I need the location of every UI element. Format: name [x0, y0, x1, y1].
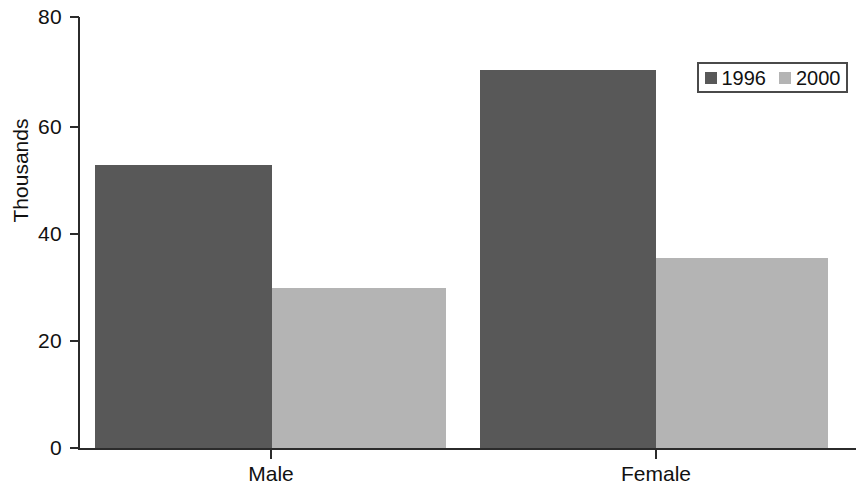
- x-tick-label: Male: [248, 462, 294, 486]
- y-tick-mark: [70, 340, 79, 342]
- y-tick-label: 40: [8, 223, 62, 244]
- legend-item-2000: 2000: [779, 68, 841, 88]
- bar-female-2000: [656, 258, 828, 448]
- y-tick-label: 80: [8, 6, 62, 27]
- x-tick-mark: [270, 450, 272, 459]
- x-axis-line: [78, 448, 856, 450]
- y-tick-label: 0: [8, 437, 62, 458]
- y-tick-mark: [70, 16, 79, 18]
- bar-male-2000: [272, 288, 446, 448]
- x-tick-mark: [655, 450, 657, 459]
- y-tick-mark: [70, 447, 79, 449]
- bar-female-1996: [480, 70, 656, 448]
- legend-swatch-2000: [779, 72, 791, 84]
- x-tick-label: Female: [621, 462, 691, 486]
- y-tick-mark: [70, 126, 79, 128]
- legend: 1996 2000: [697, 62, 848, 93]
- legend-item-1996: 1996: [705, 68, 767, 88]
- bar-male-1996: [95, 165, 272, 448]
- y-tick-label: 20: [8, 330, 62, 351]
- y-tick-mark: [70, 233, 79, 235]
- bar-chart: Thousands 806040200 MaleFemale 1996 2000: [0, 0, 857, 501]
- y-tick-label: 60: [8, 116, 62, 137]
- legend-label-1996: 1996: [722, 68, 767, 88]
- legend-label-2000: 2000: [796, 68, 841, 88]
- legend-swatch-1996: [705, 72, 717, 84]
